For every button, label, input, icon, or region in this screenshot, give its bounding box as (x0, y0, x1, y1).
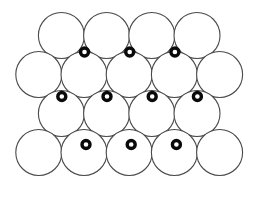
large-circle (129, 13, 175, 59)
interstitial-site-ring (82, 141, 90, 149)
large-circle (61, 130, 107, 176)
large-circle (151, 52, 197, 98)
interstitial-site-ring (103, 93, 111, 101)
large-circle (151, 130, 197, 176)
interstitial-site-ring (58, 93, 66, 101)
large-circle (197, 52, 243, 98)
interstitial-site-ring (193, 93, 201, 101)
large-circle (84, 13, 130, 59)
interstitial-site-ring (171, 48, 179, 56)
large-circles-layer (16, 13, 243, 176)
large-circle (61, 52, 107, 98)
close-packing-diagram (0, 0, 279, 206)
large-circle (16, 52, 62, 98)
large-circle-row-4 (16, 130, 243, 176)
interstitial-site-ring (172, 141, 180, 149)
packing-diagram-figure (0, 0, 279, 206)
interstitial-site-ring (81, 48, 89, 56)
large-circle-row-2 (16, 52, 243, 98)
large-circle (106, 130, 152, 176)
interstitial-site-ring (127, 141, 135, 149)
large-circle (197, 130, 243, 176)
large-circle (106, 52, 152, 98)
interstitial-site-ring (148, 93, 156, 101)
large-circle (16, 130, 62, 176)
large-circle (174, 13, 220, 59)
large-circle (38, 13, 84, 59)
interstitial-site-ring (126, 48, 134, 56)
